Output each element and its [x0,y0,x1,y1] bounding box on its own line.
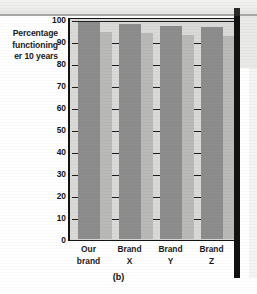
bar-group-3 [201,19,235,239]
y-tick-label-0: 0 [44,235,66,245]
bar-side-2 [182,35,194,239]
scan-top-band [0,0,257,14]
y-tick-label-20: 20 [44,191,66,201]
x-tick-label-0: Ourbrand [68,244,109,267]
x-tick-label-2-line-1: Y [150,256,191,268]
x-tick-label-1-line-0: Brand [109,244,150,256]
bar-face-3 [201,27,223,238]
x-tick-label-0-line-0: Our [68,244,109,256]
y-axis-tick-labels: 0102030405060708090100 [44,18,66,241]
plot-inner [72,21,234,239]
bar-group-1 [119,19,153,239]
bar-face-1 [119,24,141,239]
x-tick-label-2: BrandY [150,244,191,267]
y-tick-label-80: 80 [44,59,66,69]
x-axis-tick-labels: OurbrandBrandXBrandYBrandZ [68,244,234,272]
bar-group-2 [160,19,194,239]
bar-chart [68,18,234,241]
x-tick-label-3-line-0: Brand [191,244,232,256]
x-tick-label-0-line-1: brand [68,256,109,268]
bar-side-0 [100,32,112,239]
x-tick-label-2-line-0: Brand [150,244,191,256]
x-tick-label-1-line-1: X [109,256,150,268]
y-tick-label-30: 30 [44,169,66,179]
y-tick-label-60: 60 [44,103,66,113]
y-tick-label-10: 10 [44,213,66,223]
bar-face-0 [78,22,100,239]
page-edge-artifact-tip [234,8,240,16]
scan-right-gray-band [240,16,257,68]
y-tick-label-70: 70 [44,81,66,91]
scan-top-rule [0,14,257,16]
y-tick-label-50: 50 [44,125,66,135]
y-tick-label-40: 40 [44,147,66,157]
plot-area [68,18,234,241]
y-tick-label-100: 100 [44,15,66,25]
figure-page: Percentage functioning er 10 years 01020… [0,0,257,294]
page-edge-artifact [234,16,240,278]
bar-face-2 [160,26,182,238]
x-tick-label-3: BrandZ [191,244,232,267]
bar-side-1 [141,33,153,239]
figure-caption: (b) [0,272,237,282]
y-tick-label-90: 90 [44,37,66,47]
x-tick-label-1: BrandX [109,244,150,267]
x-tick-label-3-line-1: Z [191,256,232,268]
bar-side-3 [223,36,235,238]
bar-group-0 [78,19,112,239]
